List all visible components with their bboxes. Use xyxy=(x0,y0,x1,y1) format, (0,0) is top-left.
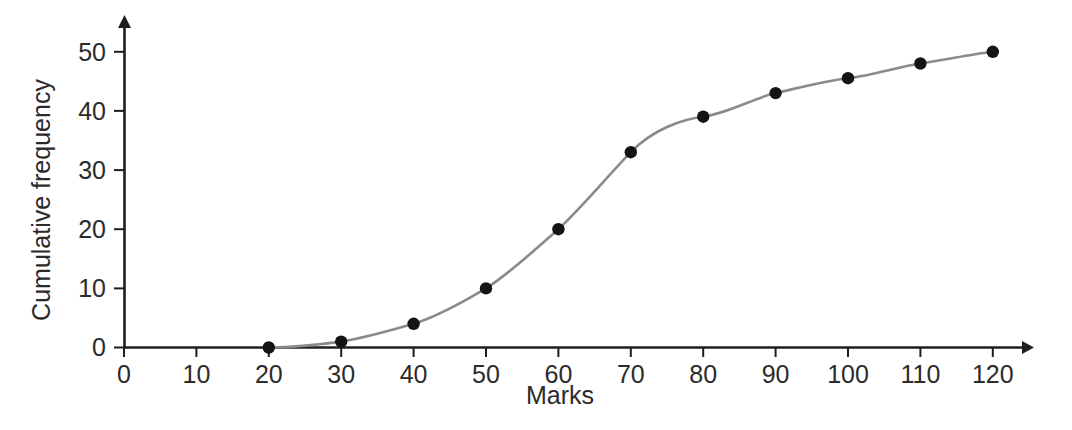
x-tick-label: 30 xyxy=(327,360,355,388)
data-point xyxy=(914,57,926,69)
chart-canvas: 0 10 20 30 40 50 60 70 80 90 100 110 120… xyxy=(0,0,1072,430)
y-tick-label: 20 xyxy=(78,215,106,243)
y-tick-label: 50 xyxy=(78,38,106,66)
data-point xyxy=(552,223,564,235)
x-tick-label: 90 xyxy=(762,360,790,388)
x-tick-label: 80 xyxy=(689,360,717,388)
x-tick-label: 40 xyxy=(400,360,428,388)
x-tick-label: 50 xyxy=(472,360,500,388)
data-point xyxy=(697,111,709,123)
x-tick-label: 10 xyxy=(182,360,210,388)
data-point xyxy=(480,282,492,294)
data-point xyxy=(987,46,999,58)
x-axis-title: Marks xyxy=(526,381,594,409)
data-point xyxy=(625,146,637,158)
data-point xyxy=(263,341,275,353)
data-point xyxy=(842,72,854,84)
data-point xyxy=(769,87,781,99)
x-tick-label: 110 xyxy=(900,360,940,388)
y-tick-label: 0 xyxy=(92,333,106,361)
x-tick-label: 120 xyxy=(972,360,1014,388)
x-tick-label: 100 xyxy=(827,360,869,388)
data-point xyxy=(407,318,419,330)
y-axis-title: Cumulative frequency xyxy=(27,79,55,321)
x-tick-label: 70 xyxy=(617,360,645,388)
y-tick-label: 10 xyxy=(78,274,106,302)
x-tick-label: 0 xyxy=(117,360,131,388)
data-point xyxy=(335,335,347,347)
y-tick-label: 40 xyxy=(78,97,106,125)
cumulative-frequency-chart: 0 10 20 30 40 50 60 70 80 90 100 110 120… xyxy=(0,0,1072,430)
x-tick-label: 20 xyxy=(255,360,283,388)
y-tick-label: 30 xyxy=(78,156,106,184)
